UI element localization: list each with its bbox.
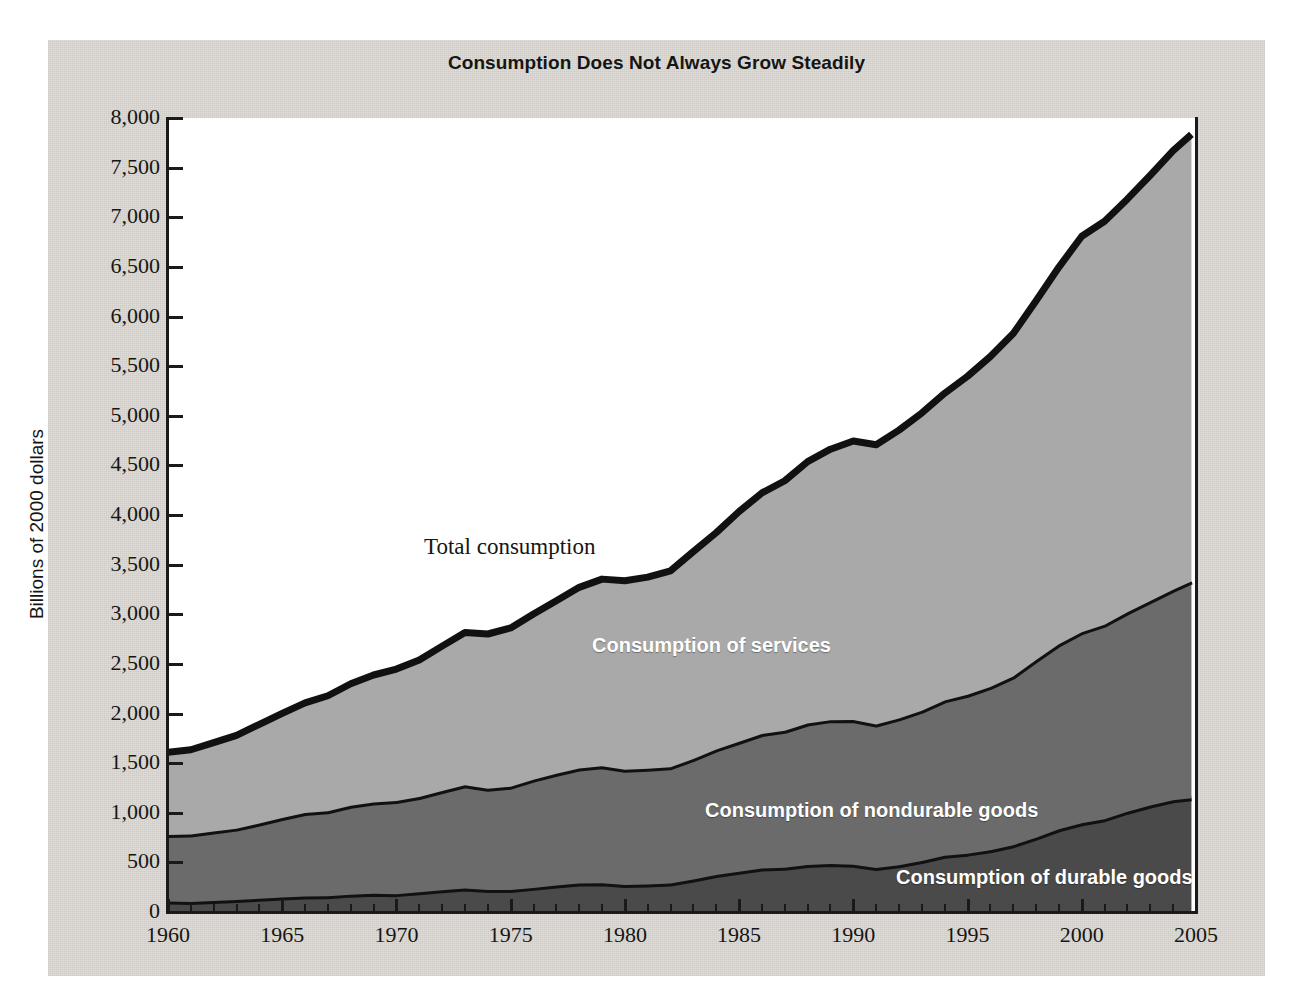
y-axis-tick — [168, 663, 183, 666]
x-axis-tick-minor — [578, 904, 580, 912]
y-axis-tick — [168, 564, 183, 567]
x-axis-tick-major — [967, 899, 970, 912]
x-axis-tick-minor — [1104, 904, 1106, 912]
x-axis-tick-label: 1985 — [717, 922, 761, 948]
x-axis-tick-minor — [304, 904, 306, 912]
x-axis-tick-minor — [921, 904, 923, 912]
y-axis-tick — [168, 762, 183, 765]
y-axis-tick-label: 6,500 — [64, 255, 160, 277]
x-axis-tick-minor — [190, 904, 192, 912]
x-axis-tick-label: 2000 — [1060, 922, 1104, 948]
annotation-consumption-of-durable-goods: Consumption of durable goods — [896, 866, 1193, 889]
x-axis-tick-major — [1195, 899, 1198, 912]
y-axis-tick — [168, 216, 183, 219]
y-axis-tick — [168, 514, 183, 517]
y-axis-tick — [168, 167, 183, 170]
x-axis-tick-minor — [1012, 904, 1014, 912]
y-axis-tick-label: 2,500 — [64, 652, 160, 674]
y-axis-tick — [168, 464, 183, 467]
y-axis-tick-label: 8,000 — [64, 106, 160, 128]
y-axis-tick — [168, 713, 183, 716]
x-axis-tick-minor — [1035, 904, 1037, 912]
x-axis-tick-minor — [875, 904, 877, 912]
x-axis-tick-minor — [236, 904, 238, 912]
x-axis-tick-minor — [441, 904, 443, 912]
annotation-consumption-of-services: Consumption of services — [592, 634, 831, 657]
y-axis-tick-label: 6,000 — [64, 305, 160, 327]
x-axis-tick-minor — [464, 904, 466, 912]
x-axis-tick-minor — [350, 904, 352, 912]
y-axis-tick — [168, 117, 183, 120]
y-axis-tick — [168, 861, 183, 864]
plot-area — [168, 118, 1196, 912]
x-axis-tick-minor — [487, 904, 489, 912]
y-axis-tick — [168, 266, 183, 269]
x-axis-tick-minor — [1149, 904, 1151, 912]
x-axis-tick-label: 2005 — [1174, 922, 1218, 948]
x-axis-tick-minor — [555, 904, 557, 912]
x-axis-tick-major — [510, 899, 513, 912]
x-axis-tick-major — [738, 899, 741, 912]
x-axis-line — [166, 911, 1198, 914]
x-axis-tick-label: 1995 — [946, 922, 990, 948]
x-axis-tick-minor — [647, 904, 649, 912]
x-axis-tick-minor — [1172, 904, 1174, 912]
x-axis-tick-minor — [213, 904, 215, 912]
x-axis-tick-major — [167, 899, 170, 912]
x-axis-tick-major — [1081, 899, 1084, 912]
x-axis-tick-minor — [898, 904, 900, 912]
x-axis-tick-label: 1970 — [374, 922, 418, 948]
x-axis-tick-minor — [784, 904, 786, 912]
x-axis-tick-major — [395, 899, 398, 912]
x-axis-tick-label: 1990 — [831, 922, 875, 948]
x-axis-tick-label: 1975 — [489, 922, 533, 948]
stacked-area-svg — [168, 118, 1196, 912]
x-axis-tick-minor — [1058, 904, 1060, 912]
x-axis-tick-minor — [373, 904, 375, 912]
y-axis-tick-label: 3,500 — [64, 553, 160, 575]
y-axis-title: Billions of 2000 dollars — [26, 409, 48, 639]
x-axis-tick-minor — [418, 904, 420, 912]
x-axis-tick-major — [852, 899, 855, 912]
x-axis-tick-minor — [601, 904, 603, 912]
y-axis-tick — [168, 911, 183, 914]
x-axis-tick-major — [281, 899, 284, 912]
page-title: Consumption Does Not Always Grow Steadil… — [48, 52, 1265, 74]
x-axis-tick-major — [624, 899, 627, 912]
y-axis-tick-label: 7,000 — [64, 205, 160, 227]
y-axis-tick — [168, 415, 183, 418]
y-axis-tick-label: 7,500 — [64, 156, 160, 178]
plot-right-border — [1195, 117, 1198, 914]
x-axis-tick-minor — [1126, 904, 1128, 912]
annotation-total-consumption: Total consumption — [424, 534, 596, 560]
chart-page: Consumption Does Not Always Grow Steadil… — [0, 0, 1300, 1001]
y-axis-tick-label: 0 — [64, 900, 160, 922]
x-axis-tick-minor — [670, 904, 672, 912]
x-axis-tick-minor — [761, 904, 763, 912]
y-axis-tick-label: 500 — [64, 850, 160, 872]
x-axis-tick-label: 1965 — [260, 922, 304, 948]
x-axis-tick-minor — [944, 904, 946, 912]
x-axis-tick-minor — [715, 904, 717, 912]
x-axis-tick-minor — [807, 904, 809, 912]
y-axis-tick-label: 2,000 — [64, 702, 160, 724]
x-axis-tick-label: 1980 — [603, 922, 647, 948]
y-axis-tick-label: 4,500 — [64, 453, 160, 475]
y-axis-tick-label: 5,500 — [64, 354, 160, 376]
x-axis-tick-minor — [533, 904, 535, 912]
y-axis-tick-label: 3,000 — [64, 602, 160, 624]
y-axis-tick — [168, 365, 183, 368]
y-axis-tick — [168, 613, 183, 616]
x-axis-tick-minor — [989, 904, 991, 912]
y-axis-tick — [168, 316, 183, 319]
x-axis-tick-minor — [258, 904, 260, 912]
y-axis-tick-label: 4,000 — [64, 503, 160, 525]
y-axis-tick-label: 1,500 — [64, 751, 160, 773]
y-axis-labels: 8,0007,5007,0006,5006,0005,5005,0004,500… — [56, 0, 160, 1001]
y-axis-tick-label: 1,000 — [64, 801, 160, 823]
x-axis-tick-label: 1960 — [146, 922, 190, 948]
y-axis-tick-label: 5,000 — [64, 404, 160, 426]
y-axis-tick — [168, 812, 183, 815]
x-axis-tick-minor — [692, 904, 694, 912]
x-axis-tick-minor — [829, 904, 831, 912]
